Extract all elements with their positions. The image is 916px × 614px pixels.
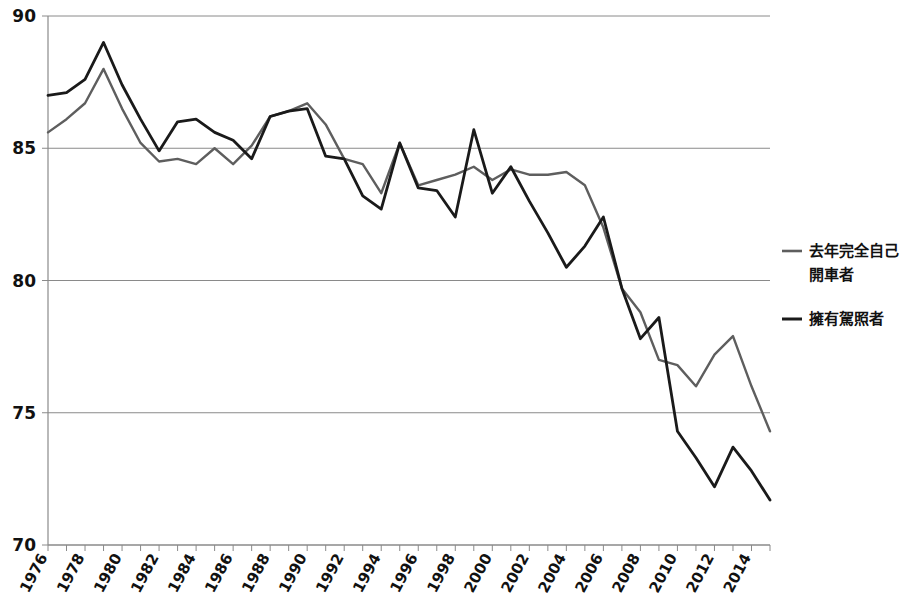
x-axis-tick-label: 1986 — [201, 550, 236, 595]
x-axis-tick-label: 1976 — [16, 550, 51, 595]
x-axis-tick-label: 1984 — [164, 550, 199, 595]
x-axis-tick-label: 1998 — [423, 550, 458, 595]
x-axis-tick-label: 1988 — [238, 550, 273, 595]
x-axis-tick-label: 2006 — [571, 550, 606, 595]
chart-legend: 去年完全自己開車者擁有駕照者 — [782, 242, 899, 328]
y-axis-tick-label: 80 — [12, 271, 36, 291]
x-axis-tick-label: 2008 — [608, 550, 643, 595]
y-axis-tick-label: 90 — [12, 6, 36, 26]
y-axis-tick-label: 70 — [12, 535, 36, 555]
chart-container: 7075808590 19761978198019821984198619881… — [0, 0, 916, 614]
y-axis-labels-group: 7075808590 — [12, 6, 36, 555]
x-axis-labels-group: 1976197819801982198419861988199019921994… — [16, 550, 755, 595]
line-chart: 7075808590 19761978198019821984198619881… — [0, 0, 916, 614]
x-axis-tick-label: 1982 — [127, 550, 162, 595]
y-axis-tick-label: 75 — [12, 403, 36, 423]
legend-label-1: 去年完全自己 — [809, 242, 899, 260]
series-line-2 — [48, 42, 770, 500]
y-axis-tick-label: 85 — [12, 138, 36, 158]
x-axis-tick-label: 2010 — [645, 550, 680, 595]
x-axis-tick-label: 1990 — [275, 550, 310, 595]
x-axis-tick-label: 2004 — [534, 550, 569, 595]
series-line-1 — [48, 69, 770, 431]
x-axis-tick-label: 2002 — [497, 550, 532, 595]
gridlines-group — [48, 16, 770, 545]
legend-label-1-line2: 開車者 — [809, 266, 854, 284]
x-axis-tick-label: 1992 — [312, 550, 347, 595]
data-series-group — [48, 42, 770, 500]
x-tick-marks-group — [48, 545, 770, 551]
x-axis-tick-label: 1994 — [349, 550, 384, 595]
x-axis-tick-label: 2012 — [682, 550, 717, 595]
x-axis-tick-label: 2014 — [720, 550, 755, 595]
legend-label-2: 擁有駕照者 — [809, 310, 884, 328]
x-axis-tick-label: 2000 — [460, 550, 495, 595]
x-axis-tick-label: 1978 — [53, 550, 88, 595]
x-axis-tick-label: 1980 — [90, 550, 125, 595]
x-axis-tick-label: 1996 — [386, 550, 421, 595]
